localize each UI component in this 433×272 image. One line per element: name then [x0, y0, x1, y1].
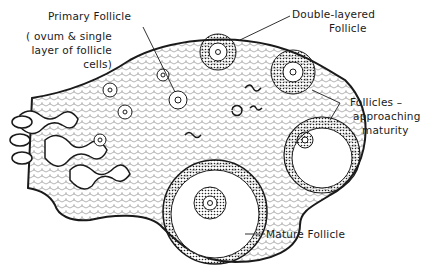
label-mature-follicle: Mature Follicle [266, 228, 345, 241]
label-primary-note-1: ( ovum & single [22, 30, 112, 43]
label-approaching-1: Follicles – [350, 96, 402, 109]
mature-follicle-shape [163, 160, 267, 264]
label-approaching-2: approaching [353, 110, 421, 123]
label-approaching-3: maturity [362, 124, 409, 137]
approaching-maturity-follicle-shape [284, 117, 360, 193]
leader-double-layered [240, 16, 290, 40]
ovary-diagram: Primary Follicle ( ovum & single layer o… [0, 0, 433, 272]
label-double-layered-1: Double-layered [292, 8, 375, 21]
double-layered-follicle-shape [200, 34, 236, 70]
label-double-layered-2: Follicle [329, 22, 367, 35]
label-primary-note-2: layer of follicle [22, 44, 112, 57]
label-primary-note-3: cells) [22, 58, 112, 71]
developing-follicle-shape [271, 50, 315, 94]
label-primary-follicle: Primary Follicle [48, 10, 131, 23]
